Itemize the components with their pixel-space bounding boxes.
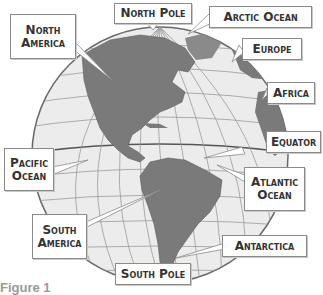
label-equator: Equator: [266, 131, 321, 153]
label-text-line1: South: [42, 224, 76, 237]
label-text-line1: North: [26, 24, 61, 37]
label-text: Equator: [271, 136, 316, 149]
label-antarctica: Antarctica: [222, 235, 307, 257]
label-text: South Pole: [121, 268, 185, 281]
label-pacific-ocean: Pacific Ocean: [4, 148, 54, 191]
label-text: Arctic Ocean: [223, 11, 297, 24]
label-text-line2: Ocean: [12, 170, 46, 183]
label-text-line2: America: [38, 237, 82, 250]
label-text: Antarctica: [235, 240, 295, 253]
label-text: North Pole: [120, 7, 185, 20]
label-south-pole: South Pole: [115, 263, 191, 285]
label-text-line2: Ocean: [257, 189, 291, 202]
label-north-pole: North Pole: [114, 3, 192, 24]
label-text-line1: Pacific: [10, 157, 48, 170]
label-text-line2: America: [21, 37, 65, 50]
label-north-america: North America: [10, 14, 76, 59]
label-text: Europe: [253, 43, 292, 56]
label-africa: Africa: [267, 82, 315, 104]
label-arctic-ocean: Arctic Ocean: [209, 6, 312, 28]
label-atlantic-ocean: Atlantic Ocean: [244, 167, 305, 211]
label-south-america: South America: [32, 214, 87, 259]
label-text: Africa: [273, 87, 309, 100]
label-europe: Europe: [242, 38, 302, 60]
figure-caption: Figure 1: [0, 280, 51, 295]
